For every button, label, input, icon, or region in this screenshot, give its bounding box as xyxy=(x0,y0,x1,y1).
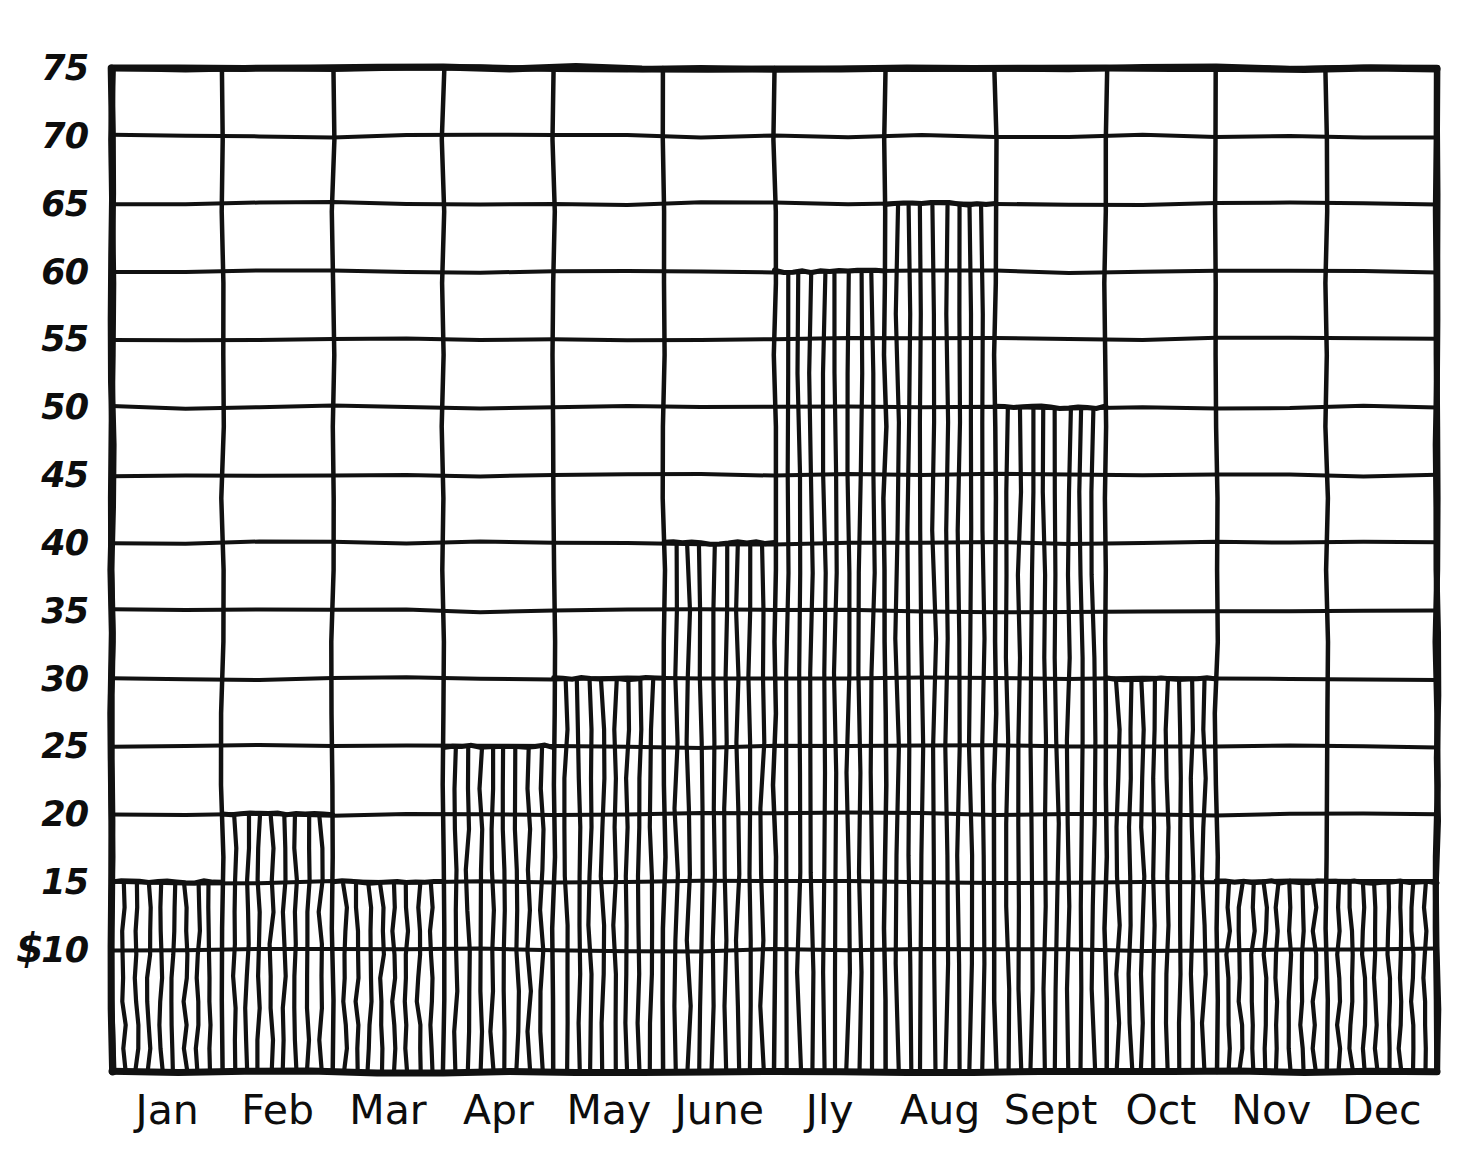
x-axis-tick-label: Nov xyxy=(1231,1090,1311,1131)
x-axis-tick-label: Apr xyxy=(463,1090,534,1131)
x-axis-tick-label: Mar xyxy=(349,1090,426,1131)
bar-chart: 7570656055504540353025201510 $ JanFebMar… xyxy=(0,0,1467,1162)
x-axis-labels: JanFebMarAprMayJuneJlyAugSeptOctNovDec xyxy=(0,0,1467,1162)
x-axis-tick-label: June xyxy=(675,1090,764,1131)
x-axis-tick-label: Jly xyxy=(806,1090,854,1131)
x-axis-tick-label: Dec xyxy=(1342,1090,1421,1131)
x-axis-tick-label: Jan xyxy=(136,1090,199,1131)
x-axis-tick-label: May xyxy=(566,1090,651,1131)
x-axis-tick-label: Aug xyxy=(900,1090,980,1131)
x-axis-tick-label: Feb xyxy=(241,1090,314,1131)
x-axis-tick-label: Sept xyxy=(1004,1090,1097,1131)
x-axis-tick-label: Oct xyxy=(1126,1090,1197,1131)
